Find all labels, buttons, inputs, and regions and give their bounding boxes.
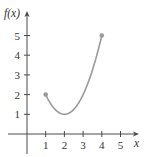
function-curve — [46, 36, 102, 115]
y-tick-label: 1 — [15, 108, 21, 120]
endpoint-dot — [100, 33, 105, 38]
plot-area — [43, 33, 104, 114]
y-tick-label: 4 — [15, 49, 21, 61]
x-tick-label: 2 — [62, 139, 68, 151]
ticks: 1234512345 — [15, 30, 124, 152]
x-tick-label: 3 — [80, 139, 86, 151]
y-tick-label: 2 — [15, 89, 21, 101]
function-graph: 1234512345 f(x) x — [0, 0, 145, 157]
y-axis-label: f(x) — [4, 7, 20, 20]
x-tick-label: 1 — [43, 139, 49, 151]
endpoint-dot — [43, 92, 48, 97]
x-tick-label: 5 — [118, 139, 124, 151]
x-axis-label: x — [133, 137, 140, 149]
y-tick-label: 3 — [15, 69, 21, 81]
axes — [8, 11, 139, 154]
x-tick-label: 4 — [99, 139, 105, 151]
y-tick-label: 5 — [15, 30, 21, 42]
